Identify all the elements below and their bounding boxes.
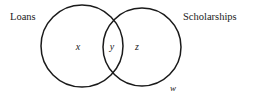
region-label-right-only: z: [135, 42, 139, 52]
region-label-left-only: x: [76, 42, 80, 52]
set-label-scholarships: Scholarships: [183, 12, 237, 23]
set-label-loans: Loans: [10, 12, 36, 23]
region-label-universe: w: [170, 84, 176, 93]
venn-diagram-figure: Loans Scholarships x y z w: [0, 0, 254, 100]
region-label-intersection: y: [110, 42, 114, 52]
